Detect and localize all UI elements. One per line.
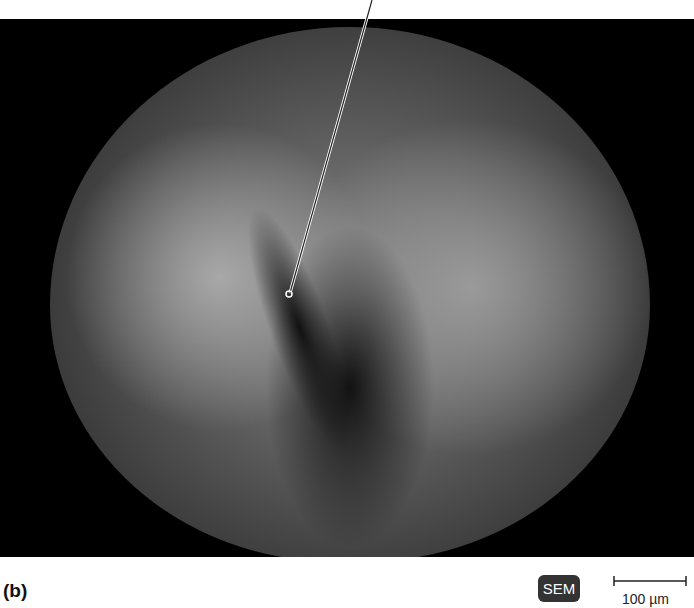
label-leader-line [0,0,694,608]
sem-badge: SEM [538,575,580,602]
scale-bar [613,576,687,586]
panel-label: (b) [3,580,27,602]
scale-bar-label: 100 µm [622,591,669,607]
